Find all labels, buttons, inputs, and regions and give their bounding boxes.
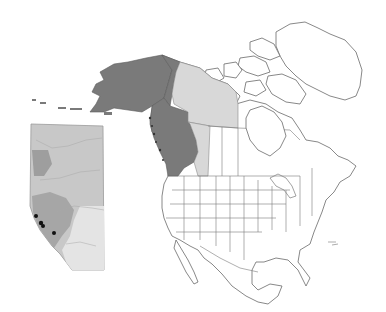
occurrence-point: [34, 214, 38, 218]
range-map: [0, 0, 386, 312]
occurrence-point: [52, 231, 56, 235]
caribbean-islands: [328, 242, 338, 245]
alberta-inset: [30, 124, 104, 270]
occurrence-point: [41, 224, 45, 228]
